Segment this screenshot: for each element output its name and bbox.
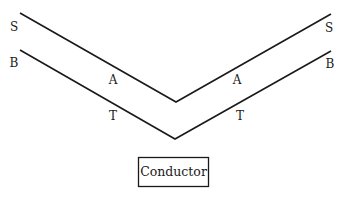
label-upper-left-s: S (10, 20, 18, 34)
label-right-a: A (232, 73, 242, 87)
label-lower-right-b: B (326, 57, 335, 71)
label-left-t: T (109, 109, 117, 123)
v-diagram: S B S B A A T T Conductor (0, 0, 343, 201)
label-upper-right-s: S (325, 21, 333, 35)
lower-v-line (20, 50, 331, 139)
label-right-t: T (236, 109, 244, 123)
upper-v-line (20, 13, 331, 102)
label-left-a: A (108, 73, 118, 87)
label-lower-left-b: B (10, 56, 19, 70)
conductor-label: Conductor (140, 164, 207, 179)
